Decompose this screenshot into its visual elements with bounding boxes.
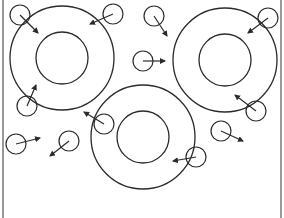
particle-9 [50,131,79,156]
ring-bottom-center [91,85,195,189]
velocity-arrow-icon [173,157,196,161]
particle-2 [90,4,123,24]
rings-group [10,6,277,189]
outer-ring-circle [91,85,195,189]
velocity-arrow-icon [16,138,40,144]
ring-top-left [10,6,114,110]
particle-4 [248,8,278,33]
outer-ring-circle [10,6,114,110]
particle-12 [173,147,206,167]
particle-11 [211,121,243,141]
inner-ring-circle [199,34,251,86]
frame [3,0,281,218]
velocity-arrow-icon [235,95,256,111]
particle-7 [235,95,266,121]
particle-3 [144,6,167,36]
inner-ring-circle [117,111,169,163]
velocity-arrow-icon [90,14,113,24]
particle-8 [6,134,40,154]
particle-10 [84,112,114,134]
diagram-canvas [0,0,284,218]
ring-particle-diagram [0,0,284,218]
particle-5 [133,51,165,71]
particle-1 [10,5,38,33]
inner-ring-circle [36,32,88,84]
velocity-arrow-icon [221,131,243,141]
